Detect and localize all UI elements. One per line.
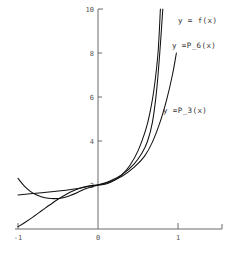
y-tick-label-8: 8 [90, 50, 94, 58]
curve-p3 [18, 53, 176, 195]
x-tick-label-0: 0 [96, 234, 100, 242]
y-tick-label-4: 4 [90, 138, 94, 146]
y-tick-marks [98, 53, 102, 185]
curves-group [18, 9, 176, 227]
label-p3-of-x: y =P_3(x) [163, 106, 207, 115]
label-f-of-x: y = f(x) [178, 16, 217, 25]
curve-annotations: y = f(x) y =P_6(x) y =P_3(x) [163, 16, 217, 115]
y-tick-label-10: 10 [86, 6, 94, 14]
x-tick-labels: -1 0 1 [14, 234, 180, 242]
curve-p6 [18, 9, 163, 199]
curve-f [18, 9, 160, 227]
y-tick-label-6: 6 [90, 94, 94, 102]
function-plot: -1 0 1 2 4 6 8 10 y = f(x) y =P_6(x) y =… [0, 0, 234, 259]
x-tick-label-neg1: -1 [14, 234, 22, 242]
x-tick-label-1: 1 [176, 234, 180, 242]
label-p6-of-x: y =P_6(x) [172, 41, 216, 50]
y-tick-labels: 2 4 6 8 10 [86, 6, 94, 190]
